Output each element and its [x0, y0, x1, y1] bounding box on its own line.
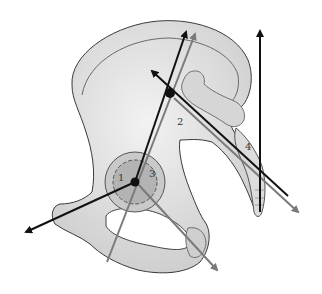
pelvis-diagram: 1 2 3 4 [0, 0, 322, 294]
label-3: 3 [149, 168, 155, 179]
diagram-stage: 1 2 3 4 [0, 0, 322, 294]
label-4: 4 [245, 141, 251, 152]
center-point-acetabulum [131, 178, 140, 187]
label-2: 2 [177, 116, 183, 127]
center-point-sacroiliac [165, 88, 175, 98]
label-1: 1 [118, 172, 124, 183]
